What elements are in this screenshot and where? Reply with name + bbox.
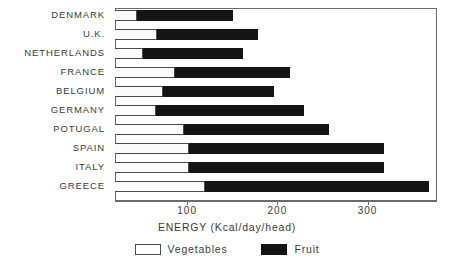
bar-row (115, 29, 437, 40)
bar-segment-fruit (143, 48, 243, 59)
fruit-swatch-icon (261, 244, 287, 255)
category-label-potugal: POTUGAL (0, 124, 105, 134)
legend-item-vegetables: Vegetables (135, 243, 228, 255)
bar-segment-vegetables (115, 124, 184, 135)
bar-segment-fruit (205, 181, 429, 192)
category-label-denmark: DENMARK (0, 10, 105, 20)
x-tick-label: 100 (177, 205, 197, 216)
bar-segment-fruit (137, 10, 234, 21)
bar-row (115, 181, 437, 192)
x-tick-label: 200 (268, 205, 288, 216)
category-label-belgium: BELGIUM (0, 86, 105, 96)
bar-segment-vegetables (115, 105, 156, 116)
x-axis-line (115, 201, 437, 202)
category-label-netherlands: NETHERLANDS (0, 48, 105, 58)
bar-segment-fruit (189, 162, 384, 173)
bar-segment-vegetables (115, 143, 189, 154)
bar-segment-fruit (156, 105, 304, 116)
category-label-greece: GREECE (0, 181, 105, 191)
bar-segment-fruit (189, 143, 384, 154)
bar-row (115, 86, 437, 97)
chart-legend: Vegetables Fruit (0, 243, 454, 255)
x-tick-label: 300 (358, 205, 378, 216)
x-axis-title: ENERGY (Kcal/day/head) (0, 221, 454, 233)
bar-row (115, 48, 437, 59)
bar-row (115, 124, 437, 135)
bar-row (115, 67, 437, 78)
bar-segment-vegetables (115, 29, 157, 40)
bar-segment-vegetables (115, 48, 143, 59)
bar-segment-fruit (157, 29, 258, 40)
legend-label-fruit: Fruit (294, 243, 319, 255)
bar-segment-fruit (184, 124, 329, 135)
bar-segment-vegetables (115, 181, 205, 192)
bar-row (115, 105, 437, 116)
bar-segment-fruit (163, 86, 274, 97)
bar-chart: DENMARK U.K. NETHERLANDS FRANCE BELGIUM … (0, 0, 454, 265)
bar-row (115, 162, 437, 173)
bar-segment-fruit (175, 67, 290, 78)
bar-segment-vegetables (115, 86, 163, 97)
legend-item-fruit: Fruit (261, 243, 319, 255)
category-label-germany: GERMANY (0, 105, 105, 115)
legend-label-vegetables: Vegetables (168, 243, 228, 255)
bar-segment-vegetables (115, 162, 189, 173)
category-label-italy: ITALY (0, 162, 105, 172)
bar-segment-vegetables (115, 10, 137, 21)
category-label-uk: U.K. (0, 29, 105, 39)
bar-row (115, 143, 437, 154)
category-label-spain: SPAIN (0, 143, 105, 153)
bar-row (115, 10, 437, 21)
category-axis-labels: DENMARK U.K. NETHERLANDS FRANCE BELGIUM … (0, 8, 110, 198)
category-label-france: FRANCE (0, 67, 105, 77)
bar-segment-vegetables (115, 67, 175, 78)
bars-layer (115, 8, 437, 201)
vegetables-swatch-icon (135, 244, 161, 255)
